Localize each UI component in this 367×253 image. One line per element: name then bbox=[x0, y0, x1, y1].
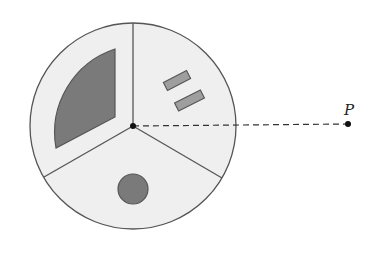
center-point bbox=[130, 123, 136, 129]
disk-diagram: P bbox=[0, 0, 367, 253]
dark-circle bbox=[118, 174, 148, 204]
point-p-label: P bbox=[343, 101, 355, 119]
point-p bbox=[345, 121, 351, 127]
